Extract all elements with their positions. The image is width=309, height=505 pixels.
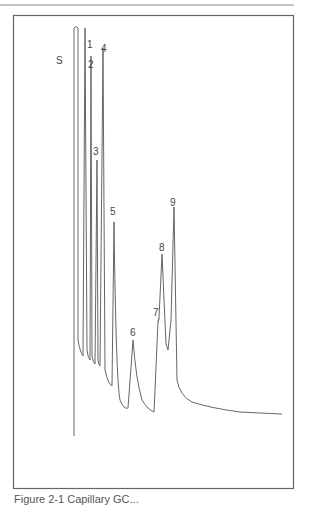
peak-label-4: 4 [101, 43, 107, 54]
peak-label-s: S [56, 55, 63, 66]
peak-label-9: 9 [170, 197, 176, 208]
figure-caption: Figure 2-1 Capillary GC... [14, 493, 139, 505]
chart-frame [14, 16, 294, 489]
peak-label-7: 7 [153, 307, 159, 318]
peak-label-5: 5 [110, 206, 116, 217]
peak-label-1: 1 [87, 39, 93, 50]
chromatogram-trace [74, 27, 282, 437]
peak-label-2: 2 [88, 59, 94, 70]
peak-label-3: 3 [93, 146, 99, 157]
peak-label-6: 6 [130, 327, 136, 338]
peak-label-8: 8 [159, 242, 165, 253]
